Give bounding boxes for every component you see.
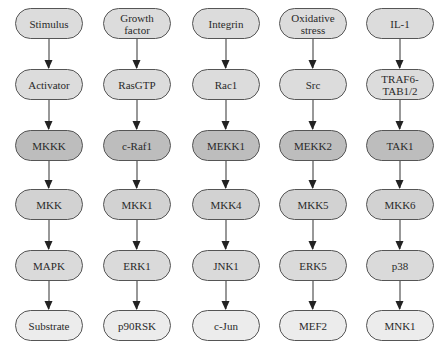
- node-activator: Rac1: [192, 69, 260, 100]
- node-mkk: MKK4: [192, 189, 260, 220]
- node-mapk: ERK5: [279, 250, 347, 281]
- arrow-down-icon: [49, 281, 50, 309]
- arrow-down-icon: [137, 281, 138, 309]
- arrow-down-icon: [226, 161, 227, 188]
- arrow-down-icon: [313, 161, 314, 188]
- node-stimulus: Integrin: [192, 8, 260, 39]
- arrow-down-icon: [226, 281, 227, 309]
- pathway-column-4: OxidativestressSrcMEKK2MKK5ERK5MEF2: [269, 0, 357, 354]
- node-mapk: MAPK: [15, 250, 83, 281]
- arrow-down-icon: [226, 39, 227, 68]
- node-substrate: MNK1: [366, 310, 434, 341]
- node-mkkk: TAK1: [366, 130, 434, 161]
- node-mkkk: c-Raf1: [103, 130, 171, 161]
- arrow-down-icon: [137, 220, 138, 249]
- arrow-down-icon: [400, 100, 401, 129]
- node-mkkk: MEKK1: [192, 130, 260, 161]
- node-mapk: p38: [366, 250, 434, 281]
- pathway-column-3: IntegrinRac1MEKK1MKK4JNK1c-Jun: [182, 0, 270, 354]
- node-activator: Src: [279, 69, 347, 100]
- arrow-down-icon: [400, 39, 401, 68]
- arrow-down-icon: [226, 220, 227, 249]
- pathway-column-1: StimulusActivatorMKKKMKKMAPKSubstrate: [5, 0, 93, 354]
- arrow-down-icon: [226, 100, 227, 129]
- node-activator: RasGTP: [103, 69, 171, 100]
- arrow-down-icon: [49, 39, 50, 68]
- arrow-down-icon: [49, 161, 50, 188]
- arrow-down-icon: [313, 39, 314, 68]
- node-stimulus: Oxidativestress: [279, 8, 347, 39]
- node-mkk: MKK1: [103, 189, 171, 220]
- arrow-down-icon: [137, 161, 138, 188]
- node-mkk: MKK5: [279, 189, 347, 220]
- node-activator: Activator: [15, 69, 83, 100]
- node-mkkk: MKKK: [15, 130, 83, 161]
- node-stimulus: IL-1: [366, 8, 434, 39]
- arrow-down-icon: [313, 220, 314, 249]
- node-stimulus: Growthfactor: [103, 8, 171, 39]
- node-mapk: ERK1: [103, 250, 171, 281]
- node-mkk: MKK6: [366, 189, 434, 220]
- arrow-down-icon: [400, 161, 401, 188]
- node-substrate: p90RSK: [103, 310, 171, 341]
- arrow-down-icon: [137, 39, 138, 68]
- node-stimulus: Stimulus: [15, 8, 83, 39]
- node-activator: TRAF6-TAB1/2: [366, 69, 434, 100]
- node-mapk: JNK1: [192, 250, 260, 281]
- node-substrate: Substrate: [15, 310, 83, 341]
- node-substrate: MEF2: [279, 310, 347, 341]
- arrow-down-icon: [137, 100, 138, 129]
- arrow-down-icon: [400, 220, 401, 249]
- arrow-down-icon: [49, 100, 50, 129]
- pathway-column-5: IL-1TRAF6-TAB1/2TAK1MKK6p38MNK1: [356, 0, 442, 354]
- node-mkk: MKK: [15, 189, 83, 220]
- node-mkkk: MEKK2: [279, 130, 347, 161]
- arrow-down-icon: [313, 100, 314, 129]
- arrow-down-icon: [313, 281, 314, 309]
- node-substrate: c-Jun: [192, 310, 260, 341]
- arrow-down-icon: [49, 220, 50, 249]
- pathway-column-2: GrowthfactorRasGTPc-Raf1MKK1ERK1p90RSK: [93, 0, 181, 354]
- arrow-down-icon: [400, 281, 401, 309]
